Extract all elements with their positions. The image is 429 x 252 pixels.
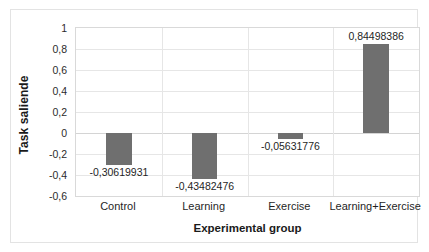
bar-value-label: -0,30619931 (89, 166, 148, 178)
y-axis-tick-label: 0 (61, 127, 67, 139)
bar-exercise[interactable] (278, 133, 304, 139)
bar-learning-plus-exercise[interactable] (363, 44, 389, 133)
plot-area: -0,30619931-0,43482476-0,056317760,84498… (75, 27, 420, 197)
y-axis-tick-label: -0,6 (49, 190, 67, 202)
y-axis-tick-label: -0,2 (49, 148, 67, 160)
y-axis-tick-label: 0,4 (52, 85, 67, 97)
category-separator-line (333, 28, 334, 196)
y-axis-tick-labels: 10,80,60,40,20-0,2-0,4-0,6 (33, 27, 71, 197)
y-axis-tick-label: 0,6 (52, 64, 67, 76)
y-axis-title-label: Task saliende (17, 75, 31, 154)
category-separator-line (248, 28, 249, 196)
y-axis-tick-label: -0,4 (49, 169, 67, 181)
chart-figure: Task saliende 10,80,60,40,20-0,2-0,4-0,6… (10, 9, 418, 243)
category-label: Learning+Exercise (329, 200, 420, 212)
y-axis-tick-label: 0,8 (52, 43, 67, 55)
bar-value-label: 0,84498386 (348, 30, 403, 42)
x-axis-title: Experimental group (75, 222, 420, 234)
category-label: Exercise (268, 200, 310, 212)
x-axis-category-labels: ControlLearningExerciseLearning+Exercise (75, 200, 420, 218)
y-axis-tick-label: 1 (61, 22, 67, 34)
category-label: Control (100, 200, 135, 212)
category-label: Learning (182, 200, 225, 212)
bar-control[interactable] (106, 133, 132, 165)
bar-value-label: -0,05631776 (261, 140, 320, 152)
bar-value-label: -0,43482476 (175, 180, 234, 192)
y-axis-title: Task saliende (15, 45, 33, 185)
category-separator-line (162, 28, 163, 196)
bar-learning[interactable] (192, 133, 218, 179)
y-axis-tick-label: 0,2 (52, 106, 67, 118)
